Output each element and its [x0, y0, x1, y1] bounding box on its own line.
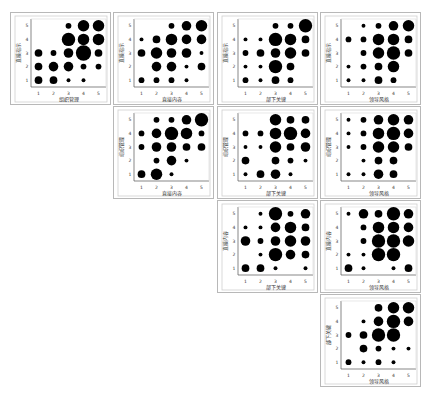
svg-text:3: 3 [26, 51, 29, 56]
svg-text:2: 2 [259, 91, 262, 96]
svg-text:2: 2 [336, 64, 339, 69]
svg-text:5: 5 [233, 211, 236, 216]
svg-text:4: 4 [289, 279, 292, 284]
svg-text:5: 5 [407, 279, 410, 284]
svg-text:4: 4 [336, 319, 339, 324]
svg-text:1: 1 [347, 185, 350, 190]
svg-text:3: 3 [336, 239, 339, 244]
svg-text:1: 1 [233, 78, 236, 83]
bubble-panel: 1122334455直接内容直接指示 [113, 12, 214, 105]
y-axis-label: 组织管理 [325, 137, 332, 157]
svg-text:3: 3 [233, 145, 236, 150]
svg-text:3: 3 [336, 51, 339, 56]
svg-text:4: 4 [233, 131, 236, 136]
x-axis-label: 部下关键 [266, 96, 286, 103]
svg-text:2: 2 [129, 158, 132, 163]
svg-text:1: 1 [233, 172, 236, 177]
svg-text:1: 1 [140, 91, 143, 96]
bubble-panel: 1122334455领导风格直接指示 [320, 12, 421, 105]
svg-text:1: 1 [336, 78, 339, 83]
svg-text:4: 4 [336, 37, 339, 42]
svg-text:5: 5 [304, 91, 307, 96]
svg-text:5: 5 [200, 91, 203, 96]
svg-text:1: 1 [244, 91, 247, 96]
svg-text:1: 1 [244, 185, 247, 190]
svg-text:4: 4 [392, 373, 395, 378]
svg-text:4: 4 [392, 185, 395, 190]
y-axis-label: 部下关键 [325, 325, 332, 345]
svg-text:4: 4 [26, 37, 29, 42]
svg-text:3: 3 [336, 333, 339, 338]
svg-text:1: 1 [129, 172, 132, 177]
svg-text:2: 2 [362, 185, 365, 190]
svg-text:5: 5 [200, 185, 203, 190]
svg-text:4: 4 [336, 131, 339, 136]
svg-text:2: 2 [362, 91, 365, 96]
svg-text:4: 4 [185, 185, 188, 190]
bubble-panel: 1122334455组织管理直接指示 [10, 12, 111, 105]
svg-text:5: 5 [97, 91, 100, 96]
svg-text:4: 4 [185, 91, 188, 96]
svg-text:3: 3 [129, 51, 132, 56]
svg-text:2: 2 [259, 279, 262, 284]
bubble-panel: 1122334455部下关键组织管理 [217, 106, 318, 199]
y-axis-label: 组织管理 [118, 137, 125, 157]
svg-text:1: 1 [347, 279, 350, 284]
svg-text:4: 4 [82, 91, 85, 96]
svg-text:2: 2 [362, 279, 365, 284]
svg-text:1: 1 [37, 91, 40, 96]
svg-text:1: 1 [336, 266, 339, 271]
svg-text:5: 5 [407, 373, 410, 378]
x-axis-label: 直接内容 [162, 96, 182, 103]
svg-text:5: 5 [233, 23, 236, 28]
svg-text:2: 2 [259, 185, 262, 190]
y-axis-label: 直接指示 [118, 43, 125, 63]
svg-text:2: 2 [155, 185, 158, 190]
y-axis-label: 直接指示 [325, 43, 332, 63]
svg-text:5: 5 [129, 23, 132, 28]
y-axis-label: 直接指示 [222, 43, 229, 63]
svg-text:2: 2 [362, 373, 365, 378]
svg-text:4: 4 [289, 91, 292, 96]
x-axis-label: 直接内容 [162, 190, 182, 197]
bubble-panel: 1122334455领导风格组织管理 [320, 106, 421, 199]
svg-text:1: 1 [244, 279, 247, 284]
svg-text:5: 5 [407, 91, 410, 96]
svg-text:2: 2 [129, 64, 132, 69]
x-axis-label: 部下关键 [266, 190, 286, 197]
svg-text:5: 5 [336, 117, 339, 122]
bubble-panel: 1122334455部下关键直接内容 [217, 200, 318, 293]
bubble-panel: 1122334455领导风格部下关键 [320, 294, 421, 387]
y-axis-label: 直接内容 [325, 231, 332, 251]
svg-text:5: 5 [407, 185, 410, 190]
svg-text:5: 5 [336, 211, 339, 216]
svg-text:2: 2 [233, 252, 236, 257]
svg-text:3: 3 [233, 51, 236, 56]
svg-text:1: 1 [347, 91, 350, 96]
svg-text:4: 4 [129, 131, 132, 136]
svg-text:2: 2 [26, 64, 29, 69]
bubble-panel: 1122334455领导风格直接内容 [320, 200, 421, 293]
svg-text:4: 4 [392, 279, 395, 284]
x-axis-label: 领导风格 [369, 190, 389, 197]
svg-text:5: 5 [304, 279, 307, 284]
x-axis-label: 组织管理 [59, 96, 79, 103]
svg-text:1: 1 [233, 266, 236, 271]
svg-text:2: 2 [336, 346, 339, 351]
svg-text:2: 2 [52, 91, 55, 96]
svg-text:2: 2 [233, 158, 236, 163]
svg-text:5: 5 [304, 185, 307, 190]
svg-text:5: 5 [233, 117, 236, 122]
svg-text:4: 4 [336, 225, 339, 230]
svg-text:5: 5 [129, 117, 132, 122]
svg-text:5: 5 [336, 305, 339, 310]
svg-text:4: 4 [392, 91, 395, 96]
svg-text:5: 5 [26, 23, 29, 28]
svg-text:4: 4 [233, 37, 236, 42]
svg-text:4: 4 [129, 37, 132, 42]
svg-text:3: 3 [129, 145, 132, 150]
svg-text:3: 3 [336, 145, 339, 150]
x-axis-label: 领导风格 [369, 284, 389, 291]
svg-text:1: 1 [26, 78, 29, 83]
x-axis-label: 领导风格 [369, 378, 389, 385]
